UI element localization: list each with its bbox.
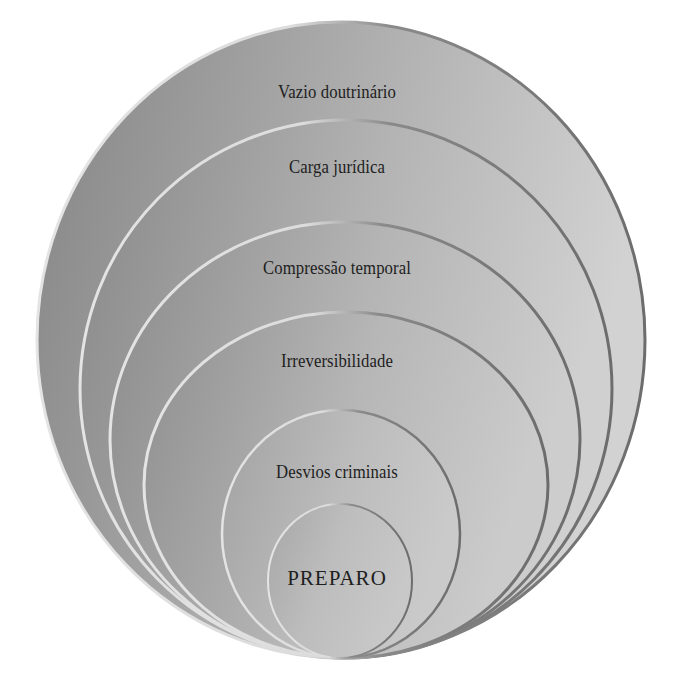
layer-label-preparo: PREPARO	[0, 566, 674, 591]
layer-label-vazio-doutrinario: Vazio doutrinário	[40, 81, 633, 103]
layer-label-irreversibilidade: Irreversibilidade	[40, 350, 633, 372]
layer-label-carga-juridica: Carga jurídica	[40, 156, 633, 178]
nested-ellipse-diagram: Vazio doutrinário Carga jurídica Compres…	[0, 0, 674, 690]
layer-label-desvios-criminais: Desvios criminais	[40, 461, 633, 483]
layer-label-compressao-temporal: Compressão temporal	[40, 257, 633, 279]
